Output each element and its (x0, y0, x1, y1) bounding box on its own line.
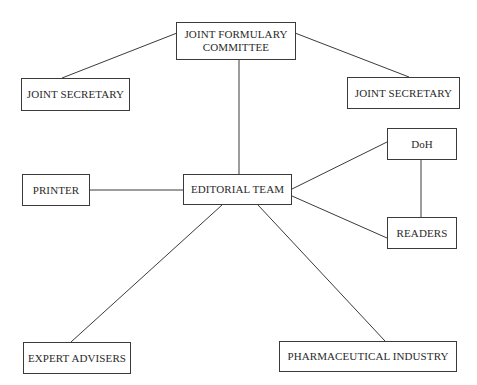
node-joint-secretary-right: JOINT SECRETARY (347, 77, 460, 109)
node-joint-formulary-committee: JOINT FORMULARY COMMITTEE (176, 22, 296, 60)
node-readers: READERS (387, 217, 457, 249)
node-doh: DoH (387, 128, 457, 160)
node-joint-secretary-left: JOINT SECRETARY (21, 78, 130, 111)
node-printer: PRINTER (22, 174, 90, 206)
node-label: DoH (411, 138, 433, 151)
node-label: PRINTER (33, 184, 80, 197)
node-expert-advisers: EXPERT ADVISERS (23, 342, 131, 374)
node-label: JOINT FORMULARY COMMITTEE (184, 28, 287, 54)
node-editorial-team: EDITORIAL TEAM (183, 174, 292, 205)
connector-editorial-doh (292, 142, 387, 189)
connector-jfc-js_left (62, 33, 177, 78)
node-label: JOINT SECRETARY (355, 87, 452, 100)
node-label: READERS (397, 227, 448, 240)
connector-editorial-readers (292, 196, 387, 238)
node-label: EDITORIAL TEAM (191, 183, 284, 196)
formulary-relationship-diagram: JOINT FORMULARY COMMITTEE JOINT SECRETAR… (0, 0, 477, 385)
connector-jfc-js_right (295, 33, 409, 77)
node-label: PHARMACEUTICAL INDUSTRY (287, 350, 448, 363)
connector-editorial-experts (71, 205, 222, 342)
node-label: JOINT SECRETARY (27, 88, 124, 101)
node-label: EXPERT ADVISERS (28, 352, 126, 365)
connector-editorial-pharma (258, 205, 385, 341)
node-pharmaceutical-industry: PHARMACEUTICAL INDUSTRY (279, 341, 457, 372)
